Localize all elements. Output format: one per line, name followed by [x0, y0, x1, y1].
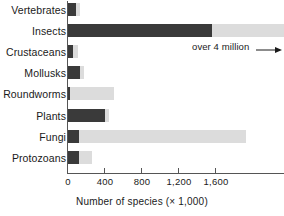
x-axis-title: Number of species (× 1,000): [0, 196, 284, 207]
x-tick-label-0: 0: [65, 176, 70, 187]
y-axis-line: [67, 1, 68, 173]
x-axis-line: [67, 173, 284, 174]
category-label-protozoans: Protozoans: [12, 152, 66, 164]
category-label-fungi: Fungi: [39, 131, 66, 143]
x-tick-400: [104, 168, 105, 173]
category-label-roundworms: Roundworms: [3, 88, 66, 100]
species-bar-chart: Vertebrates Insects Crustaceans Mollusks…: [0, 0, 284, 216]
x-tick-label-1200: 1,200: [167, 176, 192, 187]
annotation-arrow-icon: [256, 46, 282, 54]
x-tick-label-400: 400: [97, 176, 113, 187]
x-tick-0: [67, 168, 68, 173]
x-tick-label-1600: 1,600: [204, 176, 229, 187]
x-tick-1600: [215, 168, 216, 173]
category-label-insects: Insects: [32, 25, 66, 37]
annotation-over-4-million: over 4 million: [192, 41, 249, 52]
bar-estimated: [68, 130, 246, 143]
category-label-plants: Plants: [36, 110, 66, 122]
category-label-mollusks: Mollusks: [24, 67, 66, 79]
bar-estimated: [68, 87, 114, 100]
bar-described: [68, 151, 79, 164]
category-label-vertebrates: Vertebrates: [11, 4, 66, 16]
bar-described: [68, 66, 80, 79]
category-label-crustaceans: Crustaceans: [6, 46, 66, 58]
x-tick-label-800: 800: [134, 176, 150, 187]
plot-area: Vertebrates Insects Crustaceans Mollusks…: [0, 0, 284, 216]
bar-described: [68, 109, 105, 122]
bar-described: [68, 130, 79, 143]
bar-described: [68, 3, 76, 16]
x-tick-1200: [178, 168, 179, 173]
bar-described: [68, 87, 70, 100]
x-tick-800: [141, 168, 142, 173]
bar-described: [68, 45, 73, 58]
bar-described: [68, 24, 212, 37]
